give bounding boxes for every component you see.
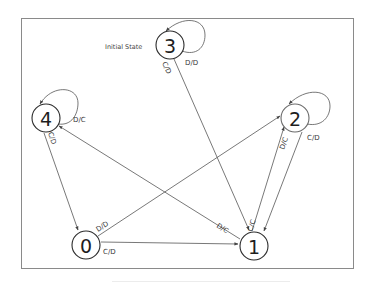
edge-label-1-4: D/C: [215, 222, 230, 236]
edge-label-2-1: D/C: [278, 136, 290, 151]
edge-0-to-2: [98, 116, 280, 236]
state-node-3: 3: [156, 31, 184, 59]
state-node-2: 2: [281, 104, 309, 132]
edge-label-2-2: C/D: [307, 134, 320, 142]
edge-label-4-4: D/C: [73, 116, 86, 124]
edge-label-3-3: D/D: [185, 59, 198, 67]
edge-label-3-1: C/D: [160, 61, 172, 76]
state-node-0-label: 0: [80, 235, 92, 257]
state-node-1: 1: [240, 232, 268, 260]
diagram-frame: [22, 19, 354, 269]
state-node-0: 0: [72, 231, 100, 259]
initial-state-annotation: Initial State: [105, 43, 142, 51]
state-node-2-label: 2: [289, 108, 301, 130]
state-node-3-label: 3: [164, 35, 176, 57]
state-node-1-label: 1: [248, 236, 260, 258]
edge-1-to-4: [59, 126, 240, 239]
state-node-4: 4: [32, 104, 60, 132]
state-node-4-label: 4: [40, 108, 52, 130]
edge-label-0-1: C/D: [103, 248, 116, 256]
state-diagram: D/D C/D D/C C/D C/D D/C C/C D/C D/D C/D …: [0, 0, 373, 284]
edge-4-to-0: [44, 133, 78, 230]
edge-0-to-1: [101, 242, 238, 244]
edge-label-1-2: C/C: [246, 218, 257, 232]
edge-label-0-2: D/D: [95, 220, 110, 234]
